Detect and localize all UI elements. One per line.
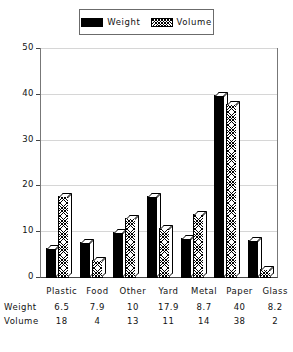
table-col-header-paper: Paper [222,283,258,300]
bar-group-glass [248,49,272,278]
bar-slot [260,49,272,278]
bar-volume-yard[interactable] [159,228,170,278]
bar-slot [181,49,193,278]
table-cell-weight-paper: 40 [222,300,258,314]
table-row: Weight6.57.91017.98.7408.2 [0,300,293,314]
legend-item-weight: Weight [81,17,140,27]
table-col-header-plastic: Plastic [44,283,80,300]
table-cell-weight-glass: 8.2 [257,300,293,314]
bar-weight-yard[interactable] [147,196,158,278]
bar-weight-glass[interactable] [248,240,259,278]
table-col-header-metal: Metal [186,283,222,300]
legend-label-weight: Weight [107,17,140,27]
y-axis-tick-10: 10 [0,231,40,232]
bar-group-other [113,49,137,278]
table-cell-weight-yard: 17.9 [151,300,187,314]
bar-volume-metal[interactable] [193,214,204,278]
y-axis-tick-40: 40 [0,94,40,95]
bar-slot [46,49,58,278]
bar-slot [92,49,104,278]
y-tick-label: 0 [28,271,34,281]
table-col-header-yard: Yard [151,283,187,300]
y-tick-label: 20 [22,179,34,189]
bar-slot [226,49,238,278]
bar-group-yard [147,49,171,278]
y-tick-label: 40 [22,88,34,98]
bar-group-metal [181,49,205,278]
bar-group-plastic [46,49,70,278]
bar-group-paper [214,49,238,278]
table-cell-volume-metal: 14 [186,314,222,328]
bar-volume-paper[interactable] [226,104,237,278]
legend-item-volume: Volume [151,17,212,27]
bar-groups [41,49,277,278]
bar-slot [193,49,205,278]
y-axis-tick-0: 0 [0,277,40,278]
bar-slot [80,49,92,278]
y-axis: 50403020100 [0,48,40,279]
bar-weight-paper[interactable] [214,95,225,278]
table-col-header-other: Other [115,283,151,300]
bar-volume-food[interactable] [92,260,103,278]
bar-slot [248,49,260,278]
bar-group-food [80,49,104,278]
bar-weight-plastic[interactable] [46,248,57,278]
table-row: Volume184131114382 [0,314,293,328]
chart-root: Weight Volume 50403020100 PlasticFoodOth… [0,0,293,352]
table-cell-volume-paper: 38 [222,314,258,328]
bar-slot [125,49,137,278]
bar-slot [58,49,70,278]
bar-weight-food[interactable] [80,242,91,278]
bar-slot [113,49,125,278]
y-axis-tick-20: 20 [0,185,40,186]
table-row-header-weight: Weight [0,300,44,314]
table-cell-volume-other: 13 [115,314,151,328]
table-corner-cell [0,283,44,300]
table-cell-weight-other: 10 [115,300,151,314]
bar-slot [214,49,226,278]
data-table: PlasticFoodOtherYardMetalPaperGlass Weig… [0,283,293,328]
bar-volume-other[interactable] [125,218,136,278]
table-col-header-food: Food [80,283,116,300]
y-axis-tick-50: 50 [0,48,40,49]
legend-swatch-weight-icon [81,18,103,27]
bar-weight-metal[interactable] [181,238,192,278]
table-cell-weight-metal: 8.7 [186,300,222,314]
table-cell-weight-food: 7.9 [80,300,116,314]
table-row-header-volume: Volume [0,314,44,328]
bar-weight-other[interactable] [113,232,124,278]
table-cell-volume-yard: 11 [151,314,187,328]
chart-legend: Weight Volume [79,9,214,35]
y-tick-label: 10 [22,225,34,235]
table-cell-weight-plastic: 6.5 [44,300,80,314]
table-cell-volume-glass: 2 [257,314,293,328]
y-tick-label: 50 [22,42,34,52]
table-cell-volume-food: 4 [80,314,116,328]
table-cell-volume-plastic: 18 [44,314,80,328]
bar-slot [159,49,171,278]
legend-swatch-volume-icon [151,18,173,27]
table-col-header-glass: Glass [257,283,293,300]
bar-volume-plastic[interactable] [58,196,69,278]
legend-label-volume: Volume [177,17,212,27]
bar-slot [147,49,159,278]
y-axis-tick-30: 30 [0,140,40,141]
y-tick-label: 30 [22,134,34,144]
bar-volume-glass[interactable] [260,269,271,278]
table-header-row: PlasticFoodOtherYardMetalPaperGlass [0,283,293,300]
table-body: Weight6.57.91017.98.7408.2Volume18413111… [0,300,293,328]
